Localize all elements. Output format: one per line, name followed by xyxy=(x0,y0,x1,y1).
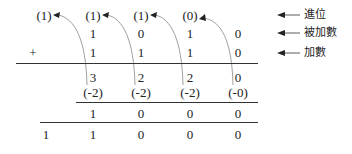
digit-divider xyxy=(76,102,258,103)
subtract-value: (-2) xyxy=(78,86,108,100)
augend-digit: 0 xyxy=(223,27,253,41)
carry-digit: (1) xyxy=(126,9,156,23)
result-digit: 1 xyxy=(78,128,108,142)
subtract-value: (-2) xyxy=(175,86,205,100)
addend-digit: 1 xyxy=(175,46,205,60)
result-divider xyxy=(40,122,258,123)
sum-digit: 0 xyxy=(223,71,253,85)
label-carry: 進位 xyxy=(304,9,326,21)
plus-sign: + xyxy=(18,46,48,60)
augend-digit: 1 xyxy=(78,27,108,41)
addend-digit: 1 xyxy=(78,46,108,60)
sum-digit: 2 xyxy=(175,71,205,85)
digit-value: 0 xyxy=(175,107,205,121)
result-digit: 0 xyxy=(175,128,205,142)
label-augend: 被加數 xyxy=(304,27,337,39)
digit-value: 1 xyxy=(78,107,108,121)
result-digit: 1 xyxy=(31,128,61,142)
carry-digit: (1) xyxy=(29,9,59,23)
result-digit: 0 xyxy=(126,128,156,142)
subtract-value: (-2) xyxy=(126,86,156,100)
augend-digit: 0 xyxy=(126,27,156,41)
addend-digit: 0 xyxy=(223,46,253,60)
carry-digit: (1) xyxy=(78,9,108,23)
augend-digit: 1 xyxy=(175,27,205,41)
carry-digit: (0) xyxy=(175,9,205,23)
sum-digit: 3 xyxy=(78,71,108,85)
digit-value: 0 xyxy=(223,107,253,121)
sum-digit: 2 xyxy=(126,71,156,85)
sum-divider xyxy=(16,63,258,64)
result-digit: 0 xyxy=(223,128,253,142)
addend-digit: 1 xyxy=(126,46,156,60)
subtract-value: (-0) xyxy=(223,86,253,100)
digit-value: 0 xyxy=(126,107,156,121)
label-addend: 加數 xyxy=(304,47,326,59)
